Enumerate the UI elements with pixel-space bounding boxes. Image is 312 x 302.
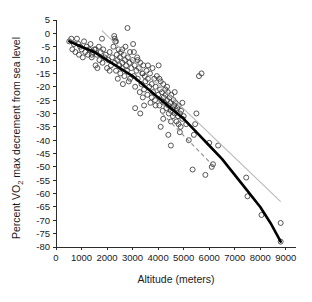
y-tick-label: -15	[36, 68, 50, 79]
y-tick-label: 0	[45, 28, 50, 39]
y-tick-label: -60	[36, 188, 50, 199]
scatter-chart: 50-5-10-15-20-25-30-35-40-45-50-55-60-65…	[0, 0, 312, 302]
x-tick-label: 2000	[96, 252, 117, 263]
x-tick-label: 7000	[224, 252, 245, 263]
x-tick-label: 5000	[173, 252, 194, 263]
y-tick-label: -45	[36, 148, 50, 159]
y-tick-label: -40	[36, 135, 50, 146]
x-tick-label: 9000	[275, 252, 296, 263]
y-tick-label: -75	[36, 228, 50, 239]
x-tick-label: 6000	[199, 252, 220, 263]
y-tick-label: -25	[36, 95, 50, 106]
figure-root: 50-5-10-15-20-25-30-35-40-45-50-55-60-65…	[0, 0, 312, 302]
x-axis-title: Altitude (meters)	[137, 273, 214, 285]
y-tick-label: -55	[36, 175, 50, 186]
y-tick-label: 5	[45, 14, 50, 25]
y-tick-label: -10	[36, 54, 50, 65]
y-tick-label: -5	[42, 41, 50, 52]
y-tick-label: -80	[36, 241, 50, 252]
x-tick-label: 1000	[71, 252, 92, 263]
y-tick-label: -30	[36, 108, 50, 119]
y-tick-label: -50	[36, 161, 50, 172]
y-tick-label: -20	[36, 81, 50, 92]
x-tick-label: 0	[53, 252, 58, 263]
y-tick-label: -70	[36, 215, 50, 226]
x-tick-label: 4000	[148, 252, 169, 263]
y-tick-label: -65	[36, 201, 50, 212]
x-tick-label: 3000	[122, 252, 143, 263]
x-tick-label: 8000	[250, 252, 271, 263]
y-tick-label: -35	[36, 121, 50, 132]
